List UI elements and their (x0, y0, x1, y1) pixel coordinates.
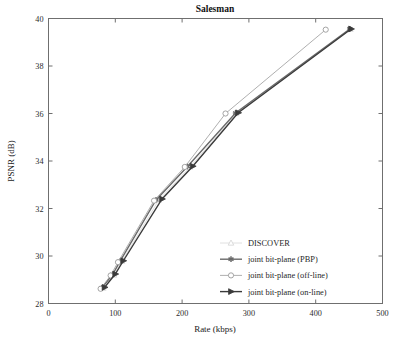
series-1 (99, 26, 352, 291)
chart-title: Salesman (196, 4, 235, 14)
series-line-0 (103, 29, 350, 288)
legend: DISCOVERjoint bit-plane (PBP)joint bit-p… (220, 239, 328, 297)
legend-entry-0[interactable]: DISCOVER (220, 239, 290, 248)
x-tick-label-5: 500 (376, 309, 388, 318)
series-line-2 (101, 30, 326, 289)
marker-triangle-right (229, 289, 235, 295)
series-3 (102, 26, 354, 290)
y-axis-label: PSNR (dB) (6, 140, 16, 181)
x-axis-ticks: 0100200300400500 (46, 19, 388, 318)
marker-circle-open (323, 27, 328, 32)
marker-circle-open (223, 111, 228, 116)
y-tick-label-4: 36 (35, 110, 43, 119)
chart-figure: Salesman 0100200300400500 28303234363840… (0, 0, 409, 345)
marker-circle-open (182, 164, 187, 169)
legend-entry-1[interactable]: joint bit-plane (PBP) (220, 255, 318, 264)
x-tick-label-1: 100 (109, 309, 121, 318)
legend-label-3: joint bit-plane (on-line) (247, 288, 327, 297)
x-axis-label: Rate (kbps) (194, 324, 236, 334)
x-tick-label-4: 400 (310, 309, 322, 318)
series-line-3 (105, 29, 351, 287)
marker-circle-open (151, 198, 156, 203)
y-tick-label-1: 30 (35, 252, 43, 261)
marker-circle-open (115, 260, 120, 265)
series-0 (101, 26, 354, 290)
y-axis-ticks: 28303234363840 (35, 15, 382, 309)
data-series-group (98, 26, 354, 291)
legend-entry-2[interactable]: joint bit-plane (off-line) (220, 271, 328, 280)
x-tick-label-3: 300 (243, 309, 255, 318)
plot-frame-group (49, 19, 383, 304)
series-line-1 (102, 29, 350, 288)
x-tick-label-2: 200 (176, 309, 188, 318)
y-tick-label-2: 32 (35, 205, 43, 214)
chart-canvas: Salesman 0100200300400500 28303234363840… (0, 0, 409, 345)
y-tick-label-6: 40 (35, 15, 43, 24)
marker-triangle-up (228, 240, 234, 245)
plot-frame (49, 19, 383, 304)
series-2 (98, 27, 328, 291)
chart-title-group: Salesman (196, 4, 235, 14)
legend-label-2: joint bit-plane (off-line) (247, 271, 328, 280)
y-tick-label-3: 34 (35, 157, 43, 166)
legend-label-0: DISCOVER (248, 239, 290, 248)
legend-entry-3[interactable]: joint bit-plane (on-line) (220, 288, 327, 297)
x-tick-label-0: 0 (46, 309, 50, 318)
y-tick-label-5: 38 (35, 62, 43, 71)
marker-circle-open (228, 273, 233, 278)
legend-label-1: joint bit-plane (PBP) (247, 255, 318, 264)
y-tick-label-0: 28 (35, 300, 43, 309)
